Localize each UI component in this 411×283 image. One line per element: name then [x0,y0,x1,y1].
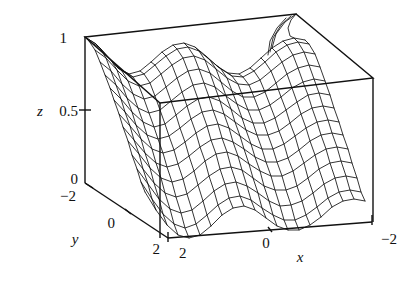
x-axis-label: x [296,249,304,265]
figure-3d-surface-plot: 1 0.5 0 z −2 0 2 y 2 0 −2 x [0,0,411,283]
x-tick-label-0: 0 [262,235,270,251]
z-tick-label-1: 1 [60,30,68,46]
y-tick-label-minus2: −2 [60,188,76,204]
y-tick-label-0: 0 [108,215,116,231]
z-tick-label-0.5: 0.5 [59,103,78,119]
z-tick-label-0: 0 [71,171,79,187]
z-axis-label: z [36,103,43,119]
x-tick-label-minus2: −2 [381,231,397,247]
y-tick-label-2: 2 [153,241,161,257]
y-axis-label: y [70,231,79,247]
x-tick-label-2: 2 [179,245,187,261]
surface-plot-svg: 1 0.5 0 z −2 0 2 y 2 0 −2 x [0,0,411,283]
